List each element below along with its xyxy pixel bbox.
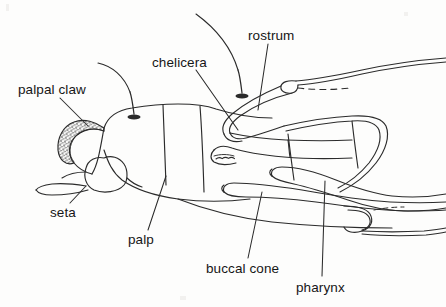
leader-seta bbox=[70, 186, 86, 203]
label-palpal-claw: palpal claw bbox=[18, 83, 86, 97]
label-seta: seta bbox=[50, 206, 76, 220]
label-chelicera: chelicera bbox=[152, 56, 207, 70]
rostrum-dashed-edge bbox=[298, 88, 350, 90]
leader-buccal-cone bbox=[248, 192, 262, 258]
palp-body-outline bbox=[104, 104, 392, 228]
leader-chelicera bbox=[196, 70, 238, 130]
anatomy-figure: palpal claw seta palp chelicera rostrum … bbox=[0, 0, 446, 307]
label-pharynx: pharynx bbox=[296, 281, 345, 295]
label-rostrum: rostrum bbox=[248, 29, 294, 43]
chelicera bbox=[211, 133, 352, 164]
seta-base-palp bbox=[128, 92, 141, 120]
palp-distal-segment bbox=[74, 128, 104, 174]
leader-pharynx bbox=[322, 181, 325, 276]
label-buccal-cone: buccal cone bbox=[206, 262, 279, 276]
seta-hair-palp bbox=[98, 63, 130, 92]
leader-rostrum bbox=[258, 44, 268, 110]
rostrum bbox=[223, 58, 446, 142]
leader-lines bbox=[60, 44, 325, 276]
mouth-cavity-shell bbox=[284, 116, 388, 192]
leader-palp bbox=[148, 176, 166, 230]
seta-base-dorsal bbox=[236, 70, 249, 99]
label-palp: palp bbox=[128, 233, 154, 247]
